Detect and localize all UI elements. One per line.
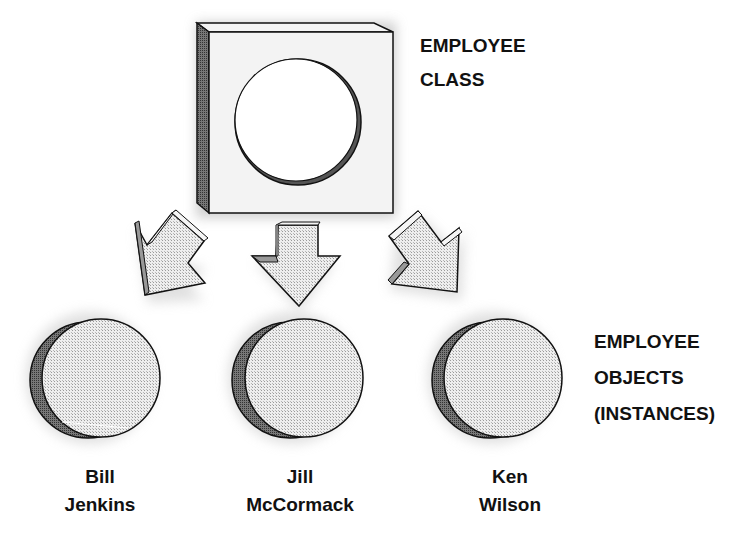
- class-label-line2: CLASS: [420, 66, 526, 94]
- object-name-jill: Jill McCormack: [220, 463, 380, 519]
- objects-label-line2: OBJECTS: [594, 360, 715, 396]
- object-last-name: McCormack: [220, 491, 380, 519]
- objects-label-line1: EMPLOYEE: [594, 324, 715, 360]
- arrow-to-ken-icon: [388, 211, 465, 300]
- object-name-ken: Ken Wilson: [450, 463, 570, 519]
- class-label: EMPLOYEE CLASS: [420, 32, 526, 94]
- object-first-name: Bill: [40, 463, 160, 491]
- object-disc-ken: [428, 312, 562, 444]
- object-disc-bill: [26, 312, 160, 444]
- objects-label: EMPLOYEE OBJECTS (INSTANCES): [594, 324, 715, 432]
- arrow-to-bill-icon: [135, 210, 208, 303]
- objects-label-line3: (INSTANCES): [594, 396, 715, 432]
- object-first-name: Jill: [220, 463, 380, 491]
- object-last-name: Wilson: [450, 491, 570, 519]
- object-disc-jill: [228, 312, 363, 444]
- class-label-line1: EMPLOYEE: [420, 32, 526, 60]
- employee-class-box: [196, 22, 396, 218]
- object-last-name: Jenkins: [40, 491, 160, 519]
- object-first-name: Ken: [450, 463, 570, 491]
- object-name-bill: Bill Jenkins: [40, 463, 160, 519]
- arrow-to-jill-icon: [252, 222, 340, 312]
